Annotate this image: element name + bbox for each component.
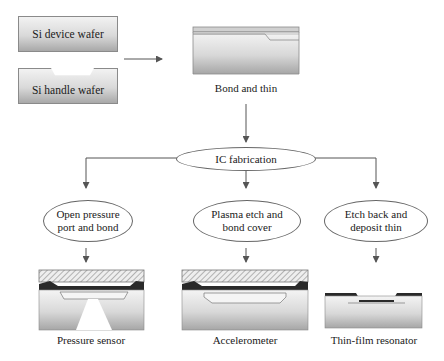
diagram-graphics: [0, 0, 444, 361]
result-thin-film-resonator: Thin-film resonator: [322, 334, 426, 346]
si-device-wafer: Si device wafer: [18, 16, 118, 52]
ic-fabrication-label: IC fabrication: [215, 153, 276, 166]
process-node-accelerometer: Plasma etch andbond cover: [193, 200, 301, 242]
si-device-wafer-label: Si device wafer: [32, 28, 104, 40]
bond-and-thin-label: Bond and thin: [206, 82, 286, 94]
process-line1: Open pressure: [56, 208, 119, 221]
process-line1: Plasma etch and: [211, 208, 282, 221]
bonded-wafer-drawing: [193, 27, 299, 74]
result-pressure-sensor: Pressure sensor: [46, 334, 136, 346]
process-line2: port and bond: [56, 221, 119, 234]
process-node-pressure: Open pressureport and bond: [43, 200, 133, 242]
process-line2: bond cover: [211, 221, 282, 234]
thin-film-resonator-drawing: [325, 293, 422, 328]
pressure-sensor-drawing: [39, 270, 144, 330]
process-line1: Etch back and: [345, 208, 407, 221]
result-accelerometer: Accelerometer: [205, 334, 285, 346]
accelerometer-drawing: [182, 270, 308, 330]
ic-fabrication-node: IC fabrication: [176, 147, 316, 171]
process-node-resonator: Etch back anddeposit thin: [324, 200, 428, 242]
si-handle-wafer-label: Si handle wafer: [32, 84, 104, 96]
process-line2: deposit thin: [345, 221, 407, 234]
